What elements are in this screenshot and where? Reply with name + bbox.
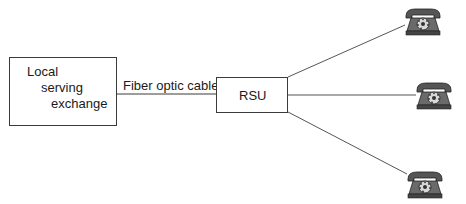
local-label-line-3: exchange xyxy=(51,96,107,111)
local-serving-exchange-box: Local serving exchange xyxy=(9,57,117,126)
rsu-box: RSU xyxy=(216,77,288,113)
telephone-icon xyxy=(414,81,454,111)
telephone-icon xyxy=(403,7,443,37)
line-to-phone-1 xyxy=(288,25,405,77)
telephone-icon xyxy=(405,170,445,200)
line-to-phone-3 xyxy=(288,112,407,174)
local-label-line-1: Local xyxy=(27,64,58,79)
fiber-optic-cable-label: Fiber optic cable xyxy=(123,78,218,93)
local-label-line-2: serving xyxy=(41,80,83,95)
rsu-label: RSU xyxy=(239,88,266,103)
